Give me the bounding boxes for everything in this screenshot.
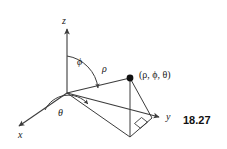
theta-angle-label: θ — [58, 108, 63, 118]
spherical-coordinates-diagram — [0, 0, 227, 149]
point-p-marker — [127, 75, 134, 82]
point-coordinates-label: (ρ, ϕ, θ) — [139, 70, 171, 80]
x-axis-label: x — [18, 130, 22, 140]
y-axis-label: y — [166, 112, 170, 122]
figure-number: 18.27 — [183, 114, 211, 126]
phi-angle-label: ϕ — [77, 57, 82, 67]
right-angle-marker — [135, 118, 148, 129]
origin-to-projection-line — [67, 93, 130, 137]
z-axis-label: z — [62, 16, 66, 26]
figure-container: z ϕ ρ (ρ, ϕ, θ) θ x y 18.27 — [0, 0, 227, 149]
rho-radius-line — [67, 78, 130, 93]
rho-radius-label: ρ — [102, 64, 107, 74]
phi-angle-arc — [67, 56, 98, 88]
